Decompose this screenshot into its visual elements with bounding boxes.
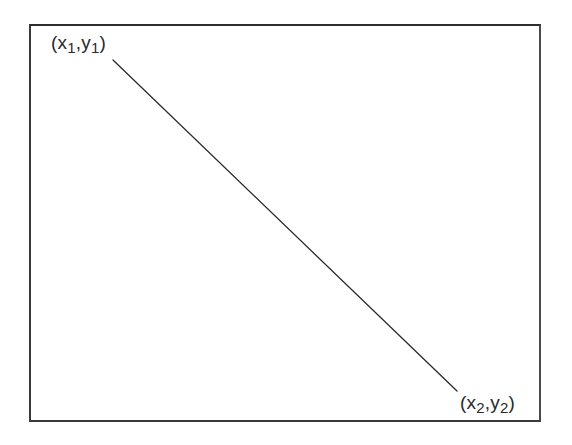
- line-segment: [113, 60, 457, 391]
- x-subscript: 1: [67, 39, 76, 56]
- line-segment-diagram: [0, 0, 572, 445]
- paren-close: ): [509, 392, 516, 413]
- y-subscript: 2: [500, 399, 509, 416]
- x-variable: x: [467, 392, 477, 413]
- x-subscript: 2: [476, 399, 485, 416]
- point-1-label: (x1,y1): [51, 33, 106, 52]
- y-variable: y: [490, 392, 500, 413]
- y-variable: y: [81, 32, 91, 53]
- paren-close: ): [100, 32, 107, 53]
- y-subscript: 1: [91, 39, 100, 56]
- x-variable: x: [58, 32, 68, 53]
- point-2-label: (x2,y2): [460, 393, 515, 412]
